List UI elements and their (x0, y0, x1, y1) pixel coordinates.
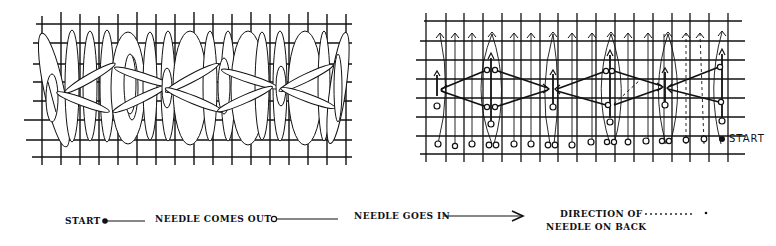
legend-needle-in-label: NEEDLE GOES IN (354, 211, 450, 222)
right-start-dot (719, 136, 725, 142)
legend-needle-out-symbol (271, 216, 338, 221)
legend-needle-in-symbol (443, 211, 523, 221)
right-satin-stitch-paths (438, 32, 722, 144)
right-vertical-stitch-circles (434, 102, 725, 127)
right-zigzag-circles (484, 64, 723, 109)
right-needle-out-circles (435, 136, 707, 148)
legend-start-symbol (103, 219, 145, 223)
right-grid (416, 13, 745, 162)
legend-direction-back-symbol (645, 212, 707, 215)
right-up-arrowheads (436, 31, 726, 38)
legend-needle-out-label: NEEDLE COMES OUT (155, 214, 271, 225)
legend-start-label: START (65, 216, 101, 227)
legend-direction-line1: DIRECTION OF (560, 209, 643, 220)
legend-direction-line2: NEEDLE ON BACK (546, 222, 646, 233)
stitch-diagram-canvas (0, 0, 776, 246)
right-start-label: START (729, 133, 765, 144)
